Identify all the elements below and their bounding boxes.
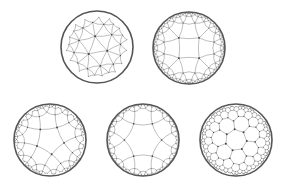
- hyperbolic-tiling-disk-4: [104, 101, 182, 179]
- geodesic-edges: [15, 105, 85, 174]
- geodesic-edges: [202, 106, 270, 175]
- disk-boundary: [107, 104, 179, 176]
- hyperbolic-tiling-disk-2: [150, 9, 228, 87]
- disk-boundary: [200, 104, 272, 176]
- disk-boundary: [153, 12, 225, 84]
- disk-boundary: [14, 104, 86, 176]
- tiling-vertices: [15, 105, 85, 175]
- geodesic-edges: [66, 17, 127, 77]
- tiling-vertices: [66, 17, 127, 77]
- tiling-vertices: [154, 13, 224, 83]
- geodesic-edges: [154, 13, 225, 84]
- hyperbolic-tiling-disk-3: [11, 101, 89, 179]
- hyperbolic-tiling-disk-5: [197, 101, 275, 179]
- geodesic-edges: [107, 105, 178, 176]
- hyperbolic-tiling-disk-1: [58, 8, 136, 86]
